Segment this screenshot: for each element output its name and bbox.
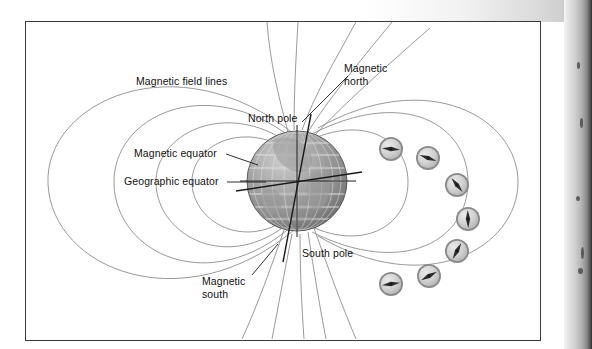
book-page-edge: [564, 0, 592, 349]
compass: [416, 146, 440, 170]
label-magnetic-equator: Magnetic equator: [134, 147, 217, 159]
leader-magnetic-south: [252, 244, 278, 275]
compass: [445, 173, 469, 197]
field-line-open-bottom: [242, 228, 356, 339]
paper-top-gradient: [0, 0, 592, 22]
magnetic-field-illustration: [26, 22, 539, 339]
label-magnetic-south-line2: south: [202, 288, 228, 300]
scanned-page: Magnetic field lines Magnetic north Nort…: [0, 0, 592, 349]
label-magnetic-north-line1: Magnetic: [344, 62, 387, 74]
label-north-pole: North pole: [248, 112, 297, 124]
compass: [417, 264, 441, 288]
compass: [379, 272, 403, 296]
label-magnetic-field-lines: Magnetic field lines: [136, 75, 227, 87]
figure-frame: Magnetic field lines Magnetic north Nort…: [25, 21, 541, 341]
label-magnetic-north-line2: north: [344, 75, 368, 87]
compass: [445, 239, 469, 263]
label-south-pole: South pole: [302, 247, 353, 259]
leader-magnetic-north: [302, 76, 348, 122]
compass: [379, 137, 403, 161]
label-geographic-equator: Geographic equator: [124, 175, 219, 187]
compass: [456, 207, 480, 231]
label-magnetic-south-line1: Magnetic: [202, 275, 245, 287]
field-loop-right-outer: [318, 100, 518, 265]
